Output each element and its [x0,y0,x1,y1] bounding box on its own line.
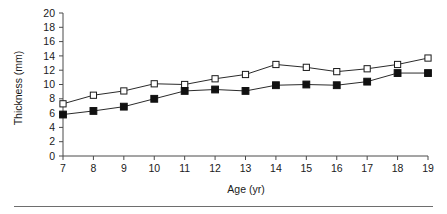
open-square-marker [303,64,309,70]
open-square-marker [151,81,157,87]
y-tick-label: 12 [43,64,55,76]
x-axis-title: Age (yr) [227,183,264,195]
x-tick-label: 10 [148,162,160,174]
open-square-marker [394,61,400,67]
open-square-marker [212,76,218,82]
thickness-vs-age-line-chart: 02468101214161820 7891011121314151617181… [0,0,447,214]
filled-square-marker [394,70,401,77]
open-square-marker [364,66,370,72]
y-tick-label: 2 [49,135,55,147]
x-tick-label: 16 [331,162,343,174]
open-square-marker [90,92,96,98]
filled-square-marker [364,78,371,85]
x-tick-label: 12 [209,162,221,174]
x-tick-label: 18 [392,162,404,174]
open-square-marker [334,69,340,75]
series-open-square-markers [60,55,431,107]
x-tick-label: 19 [422,162,434,174]
y-tick-label: 0 [49,150,55,162]
axis-lines [63,13,428,156]
filled-square-marker [242,88,249,95]
filled-square-marker [273,82,280,89]
figure-container: 02468101214161820 7891011121314151617181… [0,0,447,214]
filled-square-marker [60,111,67,118]
series-open-square-line [63,58,428,104]
y-tick-label: 8 [49,92,55,104]
y-tick-label: 16 [43,35,55,47]
open-square-marker [60,101,66,107]
x-tick-label: 7 [60,162,66,174]
x-tick-label: 11 [179,162,190,174]
filled-square-marker [181,88,188,95]
x-tick-label: 9 [121,162,127,174]
filled-square-marker [333,82,340,89]
y-axis-title: Thickness (mm) [12,51,24,126]
y-tick-label: 18 [43,21,55,33]
y-tick-label: 20 [43,7,55,19]
axis-tick-marks [59,13,428,160]
filled-square-marker [425,70,432,77]
y-tick-label: 14 [43,50,55,62]
y-tick-label: 6 [49,107,55,119]
x-tick-label: 17 [361,162,373,174]
y-tick-label: 10 [43,78,55,90]
x-tick-label: 14 [270,162,282,174]
x-tick-label: 13 [240,162,252,174]
filled-square-marker [151,95,158,102]
filled-square-marker [303,81,310,88]
x-tick-label: 15 [300,162,312,174]
open-square-marker [182,81,188,87]
filled-square-marker [212,86,219,93]
open-square-marker [273,61,279,67]
filled-square-marker [120,103,127,110]
open-square-marker [121,88,127,94]
y-tick-label: 4 [49,121,55,133]
x-tick-label: 8 [90,162,96,174]
x-axis-tick-labels: 78910111213141516171819 [60,162,434,174]
open-square-marker [242,71,248,77]
y-axis-tick-labels: 02468101214161820 [43,7,55,162]
open-square-marker [425,55,431,61]
filled-square-marker [90,108,97,115]
